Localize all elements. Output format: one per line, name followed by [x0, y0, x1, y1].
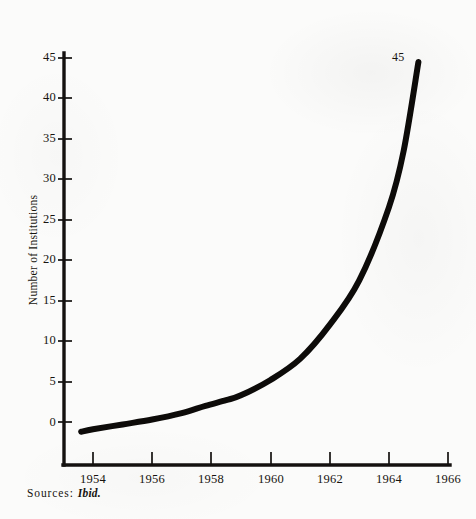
source-note-reference: Ibid.	[78, 487, 101, 499]
y-tick-label-45: 45	[22, 51, 56, 64]
data-series-line-number-of-institutions	[81, 62, 418, 432]
x-tick-label-1954: 1954	[66, 473, 120, 486]
y-tick-label-35: 35	[22, 132, 56, 145]
y-tick-label-0: 0	[22, 416, 56, 429]
y-tick-label-20: 20	[22, 253, 56, 266]
source-note-prefix: Sources:	[27, 487, 74, 499]
x-tick-label-1966: 1966	[421, 473, 475, 486]
y-tick-label-30: 30	[22, 172, 56, 185]
source-note: Sources:Ibid.	[27, 487, 101, 499]
y-tick-label-5: 5	[22, 375, 56, 388]
y-tick-label-10: 10	[22, 334, 56, 347]
x-tick-label-1956: 1956	[125, 473, 179, 486]
x-tick-label-1960: 1960	[244, 473, 298, 486]
y-tick-label-15: 15	[22, 294, 56, 307]
endpoint-value-label: 45	[392, 50, 405, 65]
x-tick-label-1962: 1962	[303, 473, 357, 486]
x-tick-label-1964: 1964	[362, 473, 416, 486]
x-tick-label-1958: 1958	[184, 473, 238, 486]
figure-page: Number of Institutions 45 40 35 30 25 20…	[0, 0, 476, 519]
y-tick-label-40: 40	[22, 91, 56, 104]
chart-plot-area	[0, 0, 476, 519]
y-tick-label-25: 25	[22, 213, 56, 226]
y-axis-title: Number of Institutions	[27, 165, 39, 335]
